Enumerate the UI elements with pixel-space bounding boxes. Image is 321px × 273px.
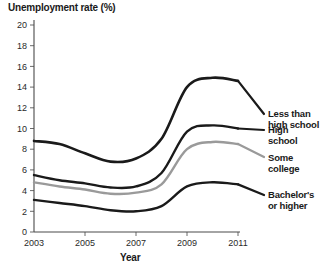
y-tick-label: 10 xyxy=(17,124,27,134)
y-tick-label: 2 xyxy=(22,207,27,217)
x-axis-title: Year xyxy=(120,252,140,263)
series-line-1 xyxy=(34,125,238,188)
x-tick-label: 2011 xyxy=(228,238,247,248)
leader-line-3 xyxy=(238,184,264,195)
legend-item-some-college: Some college xyxy=(268,152,299,174)
y-tick-label: 16 xyxy=(17,62,27,72)
unemployment-rate-chart: Unemployment rate (%) 02468101214161820 … xyxy=(0,0,321,273)
y-tick-label: 8 xyxy=(22,144,27,154)
legend-label-line1: High xyxy=(268,124,297,135)
series-line-0 xyxy=(34,78,238,162)
y-tick-label: 14 xyxy=(17,82,27,92)
legend-leader-lines xyxy=(238,81,264,195)
x-tick-label: 2009 xyxy=(177,238,197,248)
legend-item-bachelors-or-higher: Bachelor's or higher xyxy=(268,189,314,211)
y-tick-label: 6 xyxy=(22,165,27,175)
legend-label-line1: Less than xyxy=(268,108,319,119)
x-tick-label: 2007 xyxy=(126,238,146,248)
leader-line-1 xyxy=(238,129,264,131)
y-tick-label: 0 xyxy=(22,227,27,237)
data-series-group xyxy=(34,78,238,212)
legend-item-high-school: High school xyxy=(268,124,297,146)
y-axis-ticks: 02468101214161820 xyxy=(17,20,34,237)
x-axis-ticks: 20032005200720092011 xyxy=(24,232,248,248)
y-tick-label: 4 xyxy=(22,186,27,196)
y-tick-label: 18 xyxy=(17,41,27,51)
legend-label-line2: college xyxy=(268,163,299,174)
legend-label-line1: Some xyxy=(268,152,299,163)
leader-line-2 xyxy=(238,144,264,157)
leader-line-0 xyxy=(238,81,264,114)
y-tick-label: 12 xyxy=(17,103,27,113)
x-tick-label: 2005 xyxy=(75,238,95,248)
x-tick-label: 2003 xyxy=(24,238,44,248)
legend-label-line2: school xyxy=(268,135,297,146)
y-tick-label: 20 xyxy=(17,20,27,30)
legend-label-line1: Bachelor's xyxy=(268,189,314,200)
legend-label-line2: or higher xyxy=(268,200,314,211)
